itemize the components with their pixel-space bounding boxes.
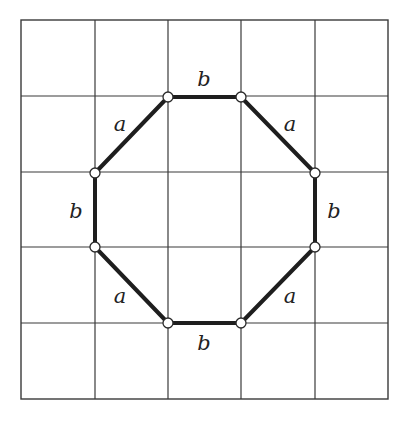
- octagon-edge-a: [95, 247, 168, 323]
- vertex-node: [310, 168, 320, 178]
- octagon-grid-diagram: babababa: [0, 0, 407, 426]
- edge-label-b: b: [197, 331, 210, 355]
- octagon-edge-a: [241, 247, 315, 323]
- vertex-node: [163, 92, 173, 102]
- vertex-node: [236, 318, 246, 328]
- vertex-node: [163, 318, 173, 328]
- edge-labels: babababa: [69, 67, 340, 355]
- octagon-edge-a: [241, 97, 315, 173]
- octagon-edge-a: [95, 97, 168, 173]
- vertex-node: [90, 242, 100, 252]
- vertex-node: [236, 92, 246, 102]
- octagon-edges: [95, 97, 315, 323]
- vertex-node: [310, 242, 320, 252]
- edge-label-b: b: [197, 67, 210, 91]
- vertex-node: [90, 168, 100, 178]
- edge-label-a: a: [114, 284, 127, 308]
- edge-label-b: b: [327, 199, 340, 223]
- edge-label-a: a: [114, 112, 127, 136]
- edge-label-a: a: [284, 284, 297, 308]
- edge-label-a: a: [284, 112, 297, 136]
- edge-label-b: b: [69, 199, 82, 223]
